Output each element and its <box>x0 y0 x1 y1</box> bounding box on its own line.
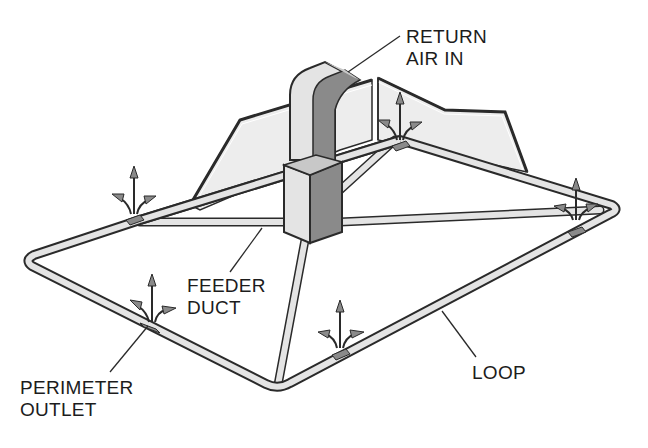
loop-label-text: LOOP <box>472 362 526 383</box>
feeder-duct-label-line2: DUCT <box>187 297 266 319</box>
perimeter-outlet-label: PERIMETER OUTLET <box>20 377 134 421</box>
perimeter-outlet-label-line1: PERIMETER <box>20 377 134 399</box>
feeder-duct-label: FEEDER DUCT <box>187 275 266 319</box>
loop-label: LOOP <box>472 362 526 384</box>
feeder-duct-label-line1: FEEDER <box>187 275 266 297</box>
return-air-label: RETURN AIR IN <box>406 26 487 70</box>
perimeter-outlet-label-line2: OUTLET <box>20 399 134 421</box>
return-air-label-line2: AIR IN <box>406 48 487 70</box>
return-air-label-line1: RETURN <box>406 26 487 48</box>
